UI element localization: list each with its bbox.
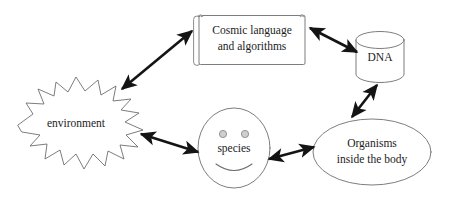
dna-label: DNA: [368, 51, 394, 63]
node-environment[interactable]: environment: [18, 77, 143, 169]
connector-environment-species[interactable]: [141, 134, 198, 152]
organisms-label-line1: Organisms: [347, 137, 397, 150]
cosmic-label-line2: and algorithms: [218, 40, 287, 53]
right-eye-icon: [241, 130, 248, 137]
organisms-label-line2: inside the body: [337, 153, 408, 166]
species-label: species: [217, 142, 251, 155]
node-dna[interactable]: DNA: [356, 32, 404, 83]
connector-environment-cosmic[interactable]: [122, 31, 192, 89]
node-species[interactable]: species: [198, 108, 270, 188]
environment-label: environment: [47, 117, 106, 129]
cylinder-top: [356, 32, 404, 49]
connector-dna-organisms[interactable]: [352, 85, 377, 117]
node-cosmic-language[interactable]: Cosmic language and algorithms: [194, 15, 305, 66]
left-eye-icon: [219, 130, 226, 137]
diagram-canvas: environment Cosmic language and algorith…: [0, 0, 454, 198]
connector-species-organisms[interactable]: [269, 147, 314, 159]
node-organisms[interactable]: Organisms inside the body: [313, 119, 431, 185]
cosmic-label-line1: Cosmic language: [212, 24, 292, 37]
diagram-svg: environment Cosmic language and algorith…: [0, 0, 454, 198]
connector-cosmic-dna[interactable]: [310, 28, 357, 52]
